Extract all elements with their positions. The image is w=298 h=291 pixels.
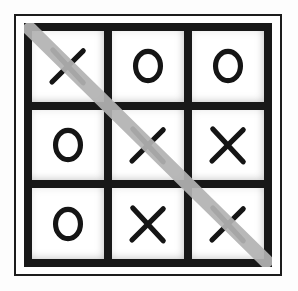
cell-bottom-left[interactable] — [32, 188, 104, 259]
mark-top-center — [126, 44, 170, 88]
mark-bottom-left — [46, 202, 90, 246]
board-grid-wrapper — [24, 23, 272, 267]
cell-middle-left[interactable] — [32, 110, 104, 181]
mark-top-right — [206, 44, 250, 88]
mark-top-left — [44, 42, 92, 90]
mark-bottom-center — [124, 200, 172, 248]
mark-bottom-right — [204, 200, 252, 248]
cell-top-right[interactable] — [192, 31, 264, 102]
tic-tac-toe-grid — [24, 23, 272, 267]
cell-top-left[interactable] — [32, 31, 104, 102]
mark-middle-left — [46, 123, 90, 167]
cell-top-center[interactable] — [112, 31, 184, 102]
mark-middle-right — [204, 121, 252, 169]
cell-bottom-center[interactable] — [112, 188, 184, 259]
mark-center — [124, 121, 172, 169]
tic-tac-toe-figure — [0, 0, 298, 291]
cell-middle-right[interactable] — [192, 110, 264, 181]
cell-bottom-right[interactable] — [192, 188, 264, 259]
cell-center[interactable] — [112, 110, 184, 181]
